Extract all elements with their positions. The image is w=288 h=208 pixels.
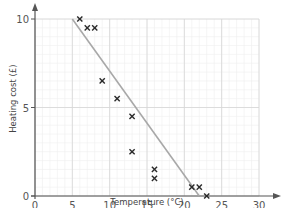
x-tick-label: 5 [69,200,75,208]
scatter-chart: 0510152025300510 Temperature (°C) Heatin… [0,0,288,208]
tick-labels: 0510152025300510 [16,14,265,208]
y-tick-label: 0 [23,191,29,202]
x-tick-label: 30 [253,200,266,208]
y-tick-label: 10 [16,14,29,25]
x-tick-label: 25 [215,200,228,208]
x-tick-label: 0 [32,200,38,208]
x-axis-label: Temperature (°C) [109,197,183,207]
y-tick-label: 5 [23,103,29,114]
y-axis-label: Heating cost (£) [8,64,18,132]
